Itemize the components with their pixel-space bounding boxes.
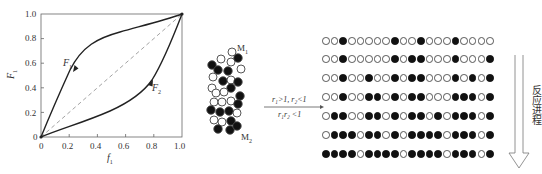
monomer-m1 [400, 37, 408, 45]
monomer-m1 [478, 131, 486, 139]
monomer-m1 [365, 55, 373, 63]
monomer-m1 [400, 74, 408, 82]
monomer-m2 [469, 131, 477, 139]
monomer-m2 [322, 150, 330, 158]
monomer-m1 [443, 74, 451, 82]
monomer-m2 [365, 131, 373, 139]
monomer-m1 [443, 112, 451, 120]
monomer-m1 [400, 55, 408, 63]
monomer-m2 [426, 150, 434, 158]
monomer-m1 [357, 37, 365, 45]
x-tick-label: 0.6 [118, 141, 129, 151]
monomer-m1 [400, 131, 408, 139]
y-tick-label: 0.6 [25, 58, 36, 68]
monomer-m1 [365, 37, 373, 45]
monomer-m2 [391, 150, 399, 158]
monomer-m1 [460, 55, 468, 63]
monomer-m2 [452, 150, 460, 158]
monomer-m2 [426, 131, 434, 139]
monomer-m1 [400, 112, 408, 120]
copolymer-chains [322, 37, 502, 167]
monomer-m1 [443, 55, 451, 63]
chain-row [322, 93, 495, 103]
monomer-m2 [486, 74, 494, 82]
monomer-m2 [452, 112, 460, 120]
x-tick-label: 0.4 [90, 141, 101, 151]
monomer-m2 [417, 74, 425, 82]
x-tick-label: 0.8 [146, 141, 157, 151]
monomer-m2 [417, 150, 425, 158]
monomer-m2 [331, 112, 339, 120]
y-tick-label: 0.8 [25, 33, 36, 43]
monomer-m2 [391, 112, 399, 120]
monomer-m1 [478, 93, 486, 101]
monomer-m1 [348, 93, 356, 101]
x-axis-label: f1 [107, 152, 113, 165]
monomer-m1 [434, 93, 442, 101]
monomer-m2 [408, 150, 416, 158]
monomer-m2 [331, 150, 339, 158]
monomer-m1 [348, 112, 356, 120]
x-tick-label: 0 [39, 141, 44, 151]
monomer-m2 [339, 93, 347, 101]
monomer-m2 [391, 55, 399, 63]
monomer-m2 [486, 131, 494, 139]
monomer-m2 [391, 131, 399, 139]
monomer-m2 [460, 93, 468, 101]
monomer-m2 [374, 150, 382, 158]
monomer-m2 [486, 112, 494, 120]
monomer-m2 [469, 74, 477, 82]
monomer-m1 [443, 150, 451, 158]
composition-plot: 1.0 0.8 0.6 0.4 0.2 0 0 0.2 0.4 0.6 0.8 … [0, 0, 200, 174]
monomer-m2 [408, 131, 416, 139]
monomer-m1 [478, 112, 486, 120]
monomer-m2 [486, 93, 494, 101]
monomer-m2 [452, 131, 460, 139]
monomer-m1 [348, 74, 356, 82]
monomer-mixture: M1 M2 [200, 40, 270, 170]
monomer-m1 [331, 55, 339, 63]
monomer-m2 [486, 150, 494, 158]
monomer-m2 [434, 131, 442, 139]
monomer-m2 [365, 74, 373, 82]
monomer-m1 [357, 131, 365, 139]
monomer-m2 [434, 150, 442, 158]
chain-row [322, 131, 495, 141]
monomer-m2 [417, 55, 425, 63]
monomer-m2 [339, 112, 347, 120]
monomer-m2 [460, 112, 468, 120]
monomer-m1 [357, 55, 365, 63]
monomer-m2 [460, 131, 468, 139]
monomer-m1 [382, 55, 390, 63]
monomer-m1 [382, 37, 390, 45]
monomer-m1 [374, 55, 382, 63]
monomer-label-m2: M2 [241, 132, 252, 144]
reaction-condition-2: r₁r₂ <1 [278, 110, 301, 119]
monomer-m2 [374, 93, 382, 101]
monomer-m1 [426, 112, 434, 120]
monomer-m2 [408, 93, 416, 101]
y-tick-label: 1.0 [25, 9, 36, 19]
monomer-m2 [391, 74, 399, 82]
x-tick-label: 0.2 [62, 141, 73, 151]
reaction-progress: 反应进程 [505, 55, 542, 170]
monomer-m2 [417, 93, 425, 101]
monomer-cluster [200, 40, 270, 170]
monomer-m1 [426, 93, 434, 101]
monomer-m2 [374, 112, 382, 120]
monomer-m1 [382, 131, 390, 139]
chain-row [322, 112, 495, 122]
monomer-m1 [374, 37, 382, 45]
monomer-m1 [374, 74, 382, 82]
monomer-m2 [408, 74, 416, 82]
monomer-m1 [408, 37, 416, 45]
monomer-m2 [486, 55, 494, 63]
monomer-m1 [478, 150, 486, 158]
monomer-m1 [426, 74, 434, 82]
monomer-m2 [417, 37, 425, 45]
curve-label-f1: F1 [63, 57, 72, 70]
monomer-m1 [348, 37, 356, 45]
monomer-m1 [443, 131, 451, 139]
monomer-m2 [374, 131, 382, 139]
chain-row [322, 150, 495, 160]
